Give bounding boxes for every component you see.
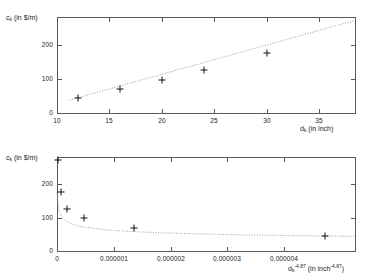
fit-curve-bottom [0,140,378,280]
fit-curve-top [0,0,378,140]
chart-bottom-inverse: ck (in $/m) dk-4.87 (in inch-4.87) 00.00… [0,140,378,280]
chart-top-linear: ck (in $/m) dk (in inch) 101520253035010… [0,0,378,140]
